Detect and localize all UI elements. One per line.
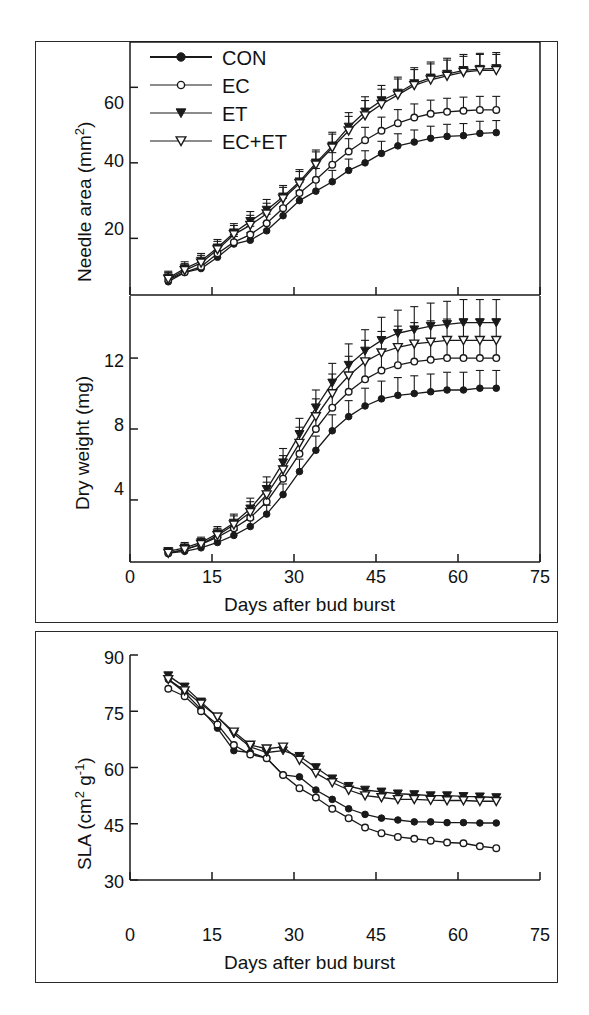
panel-c-y-label-exponent2: -1 [72, 764, 87, 775]
panel-b-ytick-12: 12 [86, 351, 124, 372]
panel-c-xtick-15: 15 [192, 925, 232, 946]
panel-c-x-axis-label: Days after bud burst [224, 952, 395, 974]
panel-b-x-axis-label: Days after bud burst [224, 594, 395, 616]
panel-a-y-axis-label: Needle area (mm2) [72, 122, 96, 282]
panel-a-y-label-tail: ) [74, 122, 95, 128]
panel-b-ytick-8: 8 [86, 415, 124, 436]
legend-label-ecet: EC+ET [222, 131, 287, 154]
panel-c-ytick-75: 75 [86, 704, 124, 725]
panel-c-xtick-45: 45 [356, 925, 396, 946]
panel-c-xtick-60: 60 [438, 925, 478, 946]
panel-c-ytick-90: 90 [86, 648, 124, 669]
panel-b-xtick-30: 30 [274, 567, 314, 588]
panel-c-ytick-45: 45 [86, 816, 124, 837]
panel-c-xtick-0: 0 [110, 925, 150, 946]
panel-b-xtick-45: 45 [356, 567, 396, 588]
panel-b-xtick-0: 0 [110, 567, 150, 588]
panel-c-ytick-60: 60 [86, 760, 124, 781]
panel-c-xtick-75: 75 [520, 925, 560, 946]
panel-a-ytick-20: 20 [86, 219, 124, 240]
legend-label-et: ET [222, 103, 248, 126]
panel-c-xtick-30: 30 [274, 925, 314, 946]
panel-a-y-label-exponent: 2 [72, 128, 87, 135]
outer-frame-top [35, 41, 558, 623]
figure-root: Needle area (mm2) Dry weight (mg) SLA (c… [0, 0, 589, 1015]
legend-label-ec: EC [222, 75, 250, 98]
panel-b-ytick-4: 4 [86, 479, 124, 500]
panel-b-xtick-75: 75 [520, 567, 560, 588]
panel-a-ytick-60: 60 [86, 93, 124, 114]
panel-c-y-label-exponent: 2 [72, 791, 87, 798]
legend-label-con: CON [222, 47, 266, 70]
panel-a-ytick-40: 40 [86, 151, 124, 172]
panel-b-xtick-60: 60 [438, 567, 478, 588]
panel-b-xtick-15: 15 [192, 567, 232, 588]
panel-c-ytick-30: 30 [86, 872, 124, 893]
